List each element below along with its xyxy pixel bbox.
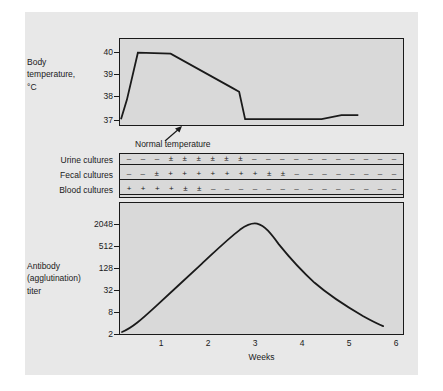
temperature-axis-title-line-1: Body	[27, 56, 75, 68]
culture-symbol: –	[364, 185, 368, 193]
culture-symbol: +	[225, 170, 230, 178]
table-row: ++++±±––––––––––––––	[120, 184, 403, 195]
antibody-ytick-32: 32	[77, 286, 113, 295]
antibody-axis-title-line-1: Antibody	[27, 260, 81, 272]
culture-symbol: +	[196, 170, 201, 178]
culture-symbol: –	[141, 170, 145, 178]
culture-symbol: –	[295, 170, 299, 178]
culture-symbol: –	[127, 155, 131, 163]
culture-symbol: ±	[224, 155, 228, 163]
culture-symbol: ±	[196, 155, 200, 163]
culture-symbol: +	[169, 185, 174, 193]
culture-symbol: –	[350, 155, 354, 163]
culture-symbol: –	[322, 155, 326, 163]
antibody-axis-title-line-2: (agglutination)	[27, 272, 81, 284]
culture-symbol: –	[336, 170, 340, 178]
antibody-ytick-512: 512	[77, 242, 113, 251]
culture-symbol: –	[280, 185, 284, 193]
culture-symbol: –	[350, 185, 354, 193]
culture-symbol: –	[378, 170, 382, 178]
culture-row-label-urine: Urine cultures	[25, 156, 113, 165]
culture-symbol: –	[392, 185, 396, 193]
culture-symbol: –	[308, 170, 312, 178]
culture-symbol: –	[364, 155, 368, 163]
culture-row-label-blood: Blood cultures	[25, 186, 113, 195]
culture-symbol: –	[294, 185, 298, 193]
culture-symbol: –	[253, 185, 257, 193]
antibody-curve-svg	[120, 203, 403, 334]
culture-symbol: –	[127, 170, 131, 178]
culture-symbol: +	[182, 170, 187, 178]
antibody-xtick-5: 5	[342, 339, 356, 348]
culture-symbol: –	[280, 155, 284, 163]
culture-symbol: ±	[183, 185, 187, 193]
culture-symbol: ±	[281, 170, 285, 178]
temperature-axis-title: Body temperature, °C	[27, 56, 75, 93]
culture-symbol: ±	[169, 155, 173, 163]
culture-symbol: +	[155, 185, 160, 193]
culture-symbol: –	[336, 185, 340, 193]
antibody-xtick-3: 3	[248, 339, 262, 348]
culture-symbol: –	[322, 170, 326, 178]
temperature-ytick-39: 39	[87, 70, 113, 79]
culture-row-label-fecal: Fecal cultures	[25, 171, 113, 180]
culture-symbol: –	[364, 170, 368, 178]
culture-symbol: –	[308, 155, 312, 163]
culture-symbol: –	[211, 185, 215, 193]
table-row: –––±±±±±±–––––––––––	[120, 154, 403, 165]
culture-symbol: ±	[197, 185, 201, 193]
temperature-ytick-37: 37	[87, 116, 113, 125]
temperature-ytick-40: 40	[87, 48, 113, 57]
temperature-curve	[121, 53, 358, 119]
antibody-xtick-6: 6	[389, 339, 403, 348]
antibody-chart-panel	[119, 202, 404, 335]
temperature-ytick-38: 38	[87, 92, 113, 101]
culture-symbol: –	[141, 155, 145, 163]
culture-symbol: –	[336, 155, 340, 163]
temperature-chart-panel	[119, 38, 404, 126]
antibody-xtick-2: 2	[201, 339, 215, 348]
antibody-axis-title-line-3: titer	[27, 285, 81, 297]
culture-symbol: –	[350, 170, 354, 178]
culture-symbol: –	[392, 155, 396, 163]
culture-symbol: +	[168, 170, 173, 178]
antibody-xaxis-label: Weeks	[119, 352, 404, 362]
antibody-ytick-2: 2	[77, 330, 113, 339]
antibody-xtick-4: 4	[295, 339, 309, 348]
antibody-curve	[122, 223, 383, 332]
culture-symbol: –	[239, 185, 243, 193]
culture-symbol: ±	[238, 155, 242, 163]
culture-symbol: –	[252, 155, 256, 163]
temperature-curve-svg	[120, 39, 403, 125]
culture-symbol: –	[378, 155, 382, 163]
table-row: ––±+++++++±±––––––––	[120, 169, 403, 180]
culture-symbol: –	[225, 185, 229, 193]
culture-symbol: +	[127, 185, 132, 193]
figure-canvas: Body temperature, °C 40 39 38 37 Normal …	[25, 12, 418, 375]
culture-symbol: +	[253, 170, 258, 178]
culture-symbol: +	[239, 170, 244, 178]
culture-symbol: ±	[210, 155, 214, 163]
culture-symbol: ±	[183, 155, 187, 163]
culture-symbol: –	[378, 185, 382, 193]
antibody-xtick-1: 1	[154, 339, 168, 348]
culture-symbol: –	[294, 155, 298, 163]
culture-symbol: –	[308, 185, 312, 193]
antibody-ytick-8: 8	[77, 308, 113, 317]
culture-symbol: –	[266, 155, 270, 163]
culture-symbol: –	[155, 155, 159, 163]
temperature-axis-title-line-3: °C	[27, 81, 75, 93]
culture-symbol: +	[211, 170, 216, 178]
antibody-ytick-2048: 2048	[77, 220, 113, 229]
culture-symbol: –	[267, 185, 271, 193]
culture-symbol: –	[322, 185, 326, 193]
normal-temperature-annotation: Normal temperature	[135, 139, 211, 149]
culture-symbol: –	[392, 170, 396, 178]
temperature-axis-title-line-2: temperature,	[27, 68, 75, 80]
antibody-axis-title: Antibody (agglutination) titer	[27, 260, 81, 297]
culture-symbol: +	[141, 185, 146, 193]
culture-symbol: ±	[154, 170, 158, 178]
culture-results-panel: –––±±±±±±––––––––––– ––±+++++++±±–––––––…	[119, 153, 404, 198]
antibody-ytick-128: 128	[77, 264, 113, 273]
culture-symbol: ±	[267, 170, 271, 178]
